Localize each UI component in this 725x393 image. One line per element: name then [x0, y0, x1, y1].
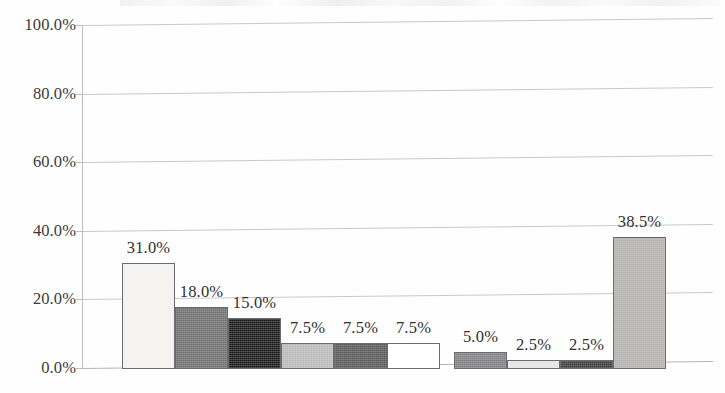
- bar-value-label: 2.5%: [516, 335, 551, 355]
- bar[interactable]: [334, 343, 387, 369]
- y-axis-tick-mark: [75, 299, 82, 300]
- bar[interactable]: [387, 343, 440, 369]
- bar-value-label: 31.0%: [127, 238, 171, 258]
- bar-value-label: 38.5%: [618, 212, 662, 232]
- bar[interactable]: [281, 343, 334, 369]
- cropped-title-artifact: [120, 0, 720, 6]
- bar[interactable]: [560, 360, 613, 369]
- y-axis-tick-mark: [75, 94, 82, 95]
- bar-chart: 100.0%80.0%60.0%40.0%20.0%0.0% 31.0%18.0…: [0, 0, 725, 393]
- y-axis-tick-label: 100.0%: [2, 15, 76, 35]
- bar-value-label: 2.5%: [569, 335, 604, 355]
- bar[interactable]: [228, 318, 281, 369]
- y-axis-tick-label: 60.0%: [2, 152, 76, 172]
- y-axis-tick-mark: [75, 162, 82, 163]
- y-axis-tick-label: 0.0%: [2, 358, 76, 378]
- y-axis-tick-label: 80.0%: [2, 84, 76, 104]
- y-axis-labels: 100.0%80.0%60.0%40.0%20.0%0.0%: [0, 0, 76, 393]
- y-axis-tick-mark: [75, 25, 82, 26]
- bar-value-label: 7.5%: [396, 318, 431, 338]
- y-axis-tick-label: 40.0%: [2, 221, 76, 241]
- y-axis-tick-label: 20.0%: [2, 289, 76, 309]
- y-axis-tick-mark: [75, 231, 82, 232]
- bar-value-label: 18.0%: [180, 282, 224, 302]
- y-axis-tick-mark: [75, 368, 82, 369]
- bar-value-label: 7.5%: [290, 318, 325, 338]
- bar[interactable]: [122, 263, 175, 369]
- bar[interactable]: [507, 360, 560, 369]
- bar-value-label: 5.0%: [463, 327, 498, 347]
- bar[interactable]: [454, 352, 507, 369]
- bar[interactable]: [613, 237, 666, 369]
- bar[interactable]: [175, 307, 228, 369]
- bar-value-label: 7.5%: [343, 318, 378, 338]
- bars-layer: 31.0%18.0%15.0%7.5%7.5%7.5%5.0%2.5%2.5%3…: [82, 25, 713, 369]
- bar-value-label: 15.0%: [233, 293, 277, 313]
